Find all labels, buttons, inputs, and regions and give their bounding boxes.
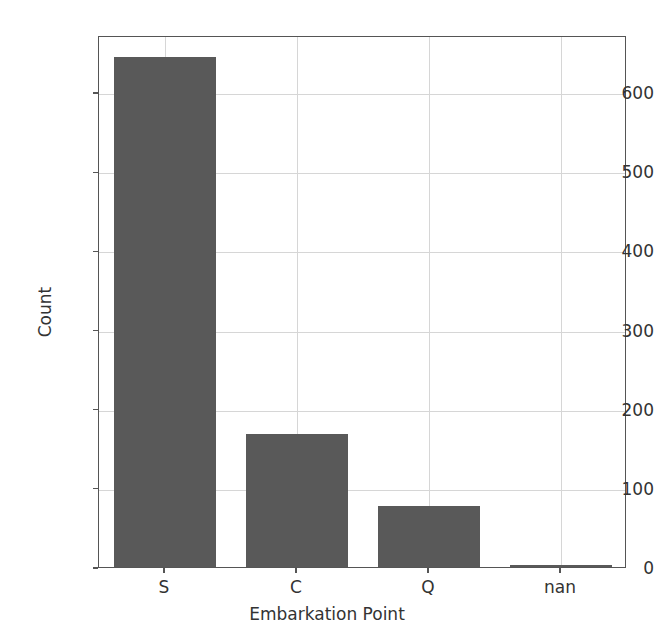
bar-Q[interactable]	[378, 506, 480, 567]
y-tick-mark	[93, 409, 98, 410]
plot-area	[98, 36, 626, 568]
y-tick-label: 500	[568, 162, 654, 182]
gridline-vertical	[561, 37, 562, 567]
x-tick-label-nan: nan	[544, 577, 576, 597]
y-tick-label: 300	[568, 321, 654, 341]
x-axis-label: Embarkation Point	[0, 604, 654, 624]
x-tick-mark	[559, 568, 560, 573]
y-tick-mark	[93, 251, 98, 252]
x-tick-label-S: S	[159, 577, 170, 597]
y-tick-label: 400	[568, 241, 654, 261]
y-tick-mark	[93, 488, 98, 489]
y-tick-label: 200	[568, 400, 654, 420]
x-tick-mark	[427, 568, 428, 573]
bar-C[interactable]	[246, 434, 348, 567]
y-axis-label: Count	[35, 252, 55, 372]
x-tick-mark	[163, 568, 164, 573]
y-tick-mark	[93, 330, 98, 331]
y-tick-label: 100	[568, 479, 654, 499]
x-tick-mark	[295, 568, 296, 573]
x-tick-label-Q: Q	[421, 577, 434, 597]
y-tick-label: 0	[568, 558, 654, 578]
y-tick-mark	[93, 567, 98, 568]
bar-chart-figure: 0100200300400500600SCQnan Embarkation Po…	[0, 0, 654, 641]
y-tick-mark	[93, 172, 98, 173]
bar-S[interactable]	[114, 57, 216, 567]
x-tick-label-C: C	[290, 577, 302, 597]
y-tick-mark	[93, 92, 98, 93]
gridline-vertical	[429, 37, 430, 567]
y-tick-label: 600	[568, 83, 654, 103]
